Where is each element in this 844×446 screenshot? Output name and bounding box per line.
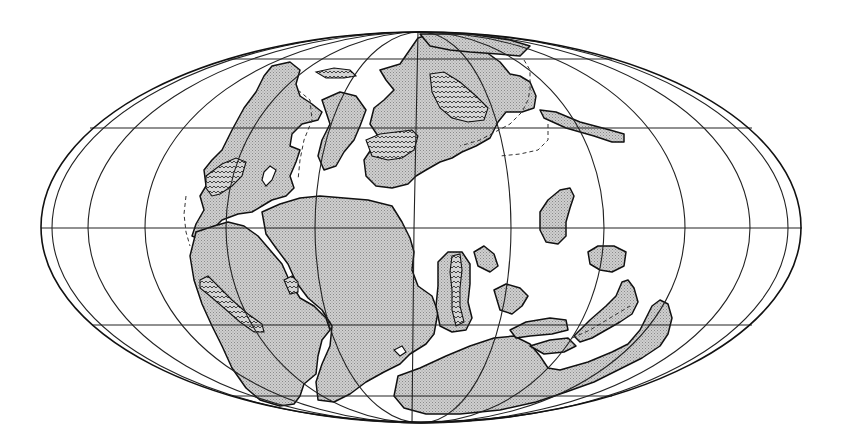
landmass-greenland — [318, 92, 366, 170]
orogenic-belt-arctic-strip — [316, 68, 356, 78]
landmass-east-island — [540, 110, 624, 142]
paleogeographic-world-map — [0, 0, 844, 446]
landmasses-layer — [184, 34, 672, 414]
landmass-microcontinent-5 — [510, 318, 568, 338]
landmass-microcontinent-3 — [474, 246, 498, 272]
landmass-microcontinent-4 — [494, 284, 528, 314]
landmass-australia — [574, 280, 638, 342]
landmass-microcontinent-1 — [540, 188, 574, 244]
shelf-margin-east-asia-south — [500, 124, 548, 156]
landmass-microcontinent-2 — [588, 246, 626, 272]
shelf-margin-west-america — [184, 196, 190, 246]
